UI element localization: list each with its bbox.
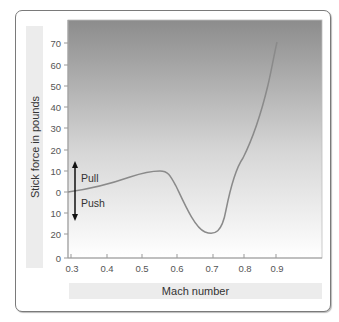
svg-text:0.6: 0.6 (170, 263, 183, 274)
push-label: Push (81, 197, 105, 209)
svg-text:0.3: 0.3 (65, 263, 78, 274)
svg-text:20: 20 (50, 229, 61, 240)
x-axis-label: Mach number (69, 283, 322, 299)
pull-label: Pull (81, 172, 99, 184)
svg-text:0.9: 0.9 (270, 263, 283, 274)
svg-text:50: 50 (50, 81, 61, 92)
y-ticks: 70 60 50 40 30 20 10 0 10 20 0 (50, 38, 68, 264)
svg-text:30: 30 (50, 123, 61, 134)
svg-text:60: 60 (50, 60, 61, 71)
svg-text:0.7: 0.7 (205, 263, 218, 274)
svg-text:40: 40 (50, 102, 61, 113)
svg-text:20: 20 (50, 145, 61, 156)
svg-text:0.4: 0.4 (100, 263, 113, 274)
svg-text:10: 10 (50, 208, 61, 219)
svg-text:0.8: 0.8 (238, 263, 251, 274)
svg-text:0.5: 0.5 (135, 263, 148, 274)
svg-text:10: 10 (50, 166, 61, 177)
plot-area: 70 60 50 40 30 20 10 0 10 20 0 0.3 0.4 0… (0, 0, 339, 322)
svg-text:0: 0 (56, 253, 61, 264)
svg-text:70: 70 (50, 38, 61, 49)
svg-text:0: 0 (56, 187, 61, 198)
